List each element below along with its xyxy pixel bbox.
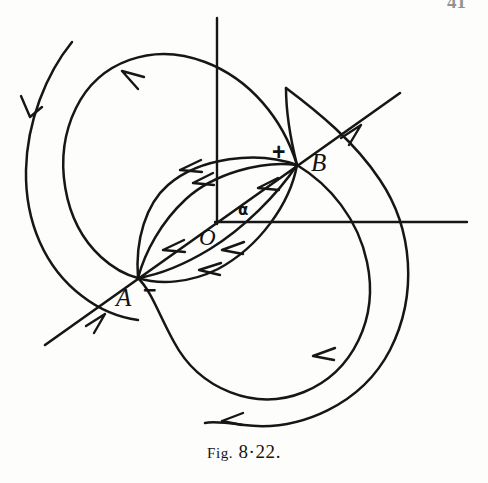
label-origin: O <box>199 226 216 249</box>
field-line-diagram <box>0 0 488 483</box>
label-charge-positive: + <box>272 141 285 164</box>
figure-caption: Fig. 8·22. <box>0 441 488 463</box>
caption-number: 8·22. <box>238 441 281 462</box>
outer-arc-upper-left-path <box>26 42 138 320</box>
arrow-ab-upper <box>258 178 279 190</box>
arrow-lens-upper-2 <box>193 173 214 185</box>
arc-stub-above-b-path <box>286 88 297 165</box>
arc-stub-above-b <box>286 88 297 165</box>
outer-arc-upper-left <box>21 42 138 320</box>
arrow-mid-upper-left <box>122 71 144 89</box>
label-point-a: A <box>116 285 131 310</box>
axes-group <box>215 18 467 224</box>
label-charge-negative: − <box>143 279 156 302</box>
caption-prefix: Fig. <box>207 445 233 461</box>
arrow-lens-lower-1 <box>222 242 244 254</box>
ray-arrow-lower <box>86 314 105 333</box>
figure-container: 41 <box>0 0 488 483</box>
label-angle-alpha: α <box>238 203 248 218</box>
arrow-mid-lower-right <box>313 348 335 360</box>
label-point-b: B <box>311 150 326 175</box>
arrow-ab-toward-a <box>163 240 185 252</box>
